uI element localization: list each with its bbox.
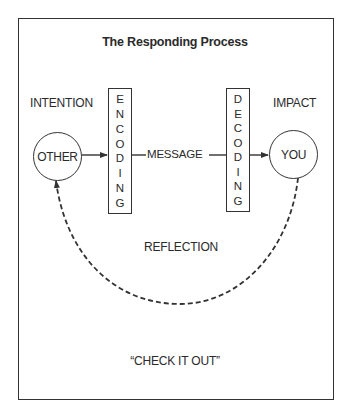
decoding-letter: D <box>234 151 242 164</box>
decoding-letter: E <box>234 108 242 121</box>
decoding-letter: I <box>236 166 239 179</box>
encoding-letter: N <box>116 182 124 195</box>
impact-label: IMPACT <box>273 96 316 110</box>
decoding-letter: N <box>234 180 242 193</box>
decoding-letter: C <box>234 122 242 135</box>
you-node-label: YOU <box>281 148 306 162</box>
encoding-letter: E <box>116 93 124 106</box>
reflection-label: REFLECTION <box>0 240 350 254</box>
decoding-letter: D <box>234 93 242 106</box>
you-node: YOU <box>269 130 318 179</box>
encoding-letter: D <box>116 152 124 165</box>
decoding-letter: O <box>234 137 243 150</box>
decoding-box: D E C O D I N G <box>226 88 250 212</box>
intention-label: INTENTION <box>30 96 93 110</box>
encoding-letter: O <box>116 138 125 151</box>
diagram-title: The Responding Process <box>0 35 350 49</box>
message-label: MESSAGE <box>147 148 202 160</box>
decoding-letter: G <box>234 195 243 208</box>
encoding-box: E N C O D I N G <box>108 88 132 214</box>
encoding-letter: I <box>118 167 121 180</box>
encoding-letter: G <box>116 197 125 210</box>
encoding-letter: N <box>116 108 124 121</box>
diagram-connectors <box>0 0 350 415</box>
other-node-label: OTHER <box>37 150 78 164</box>
encoding-letter: C <box>116 123 124 136</box>
check-it-out-label: “CHECK IT OUT” <box>0 354 350 368</box>
other-node: OTHER <box>33 132 82 181</box>
